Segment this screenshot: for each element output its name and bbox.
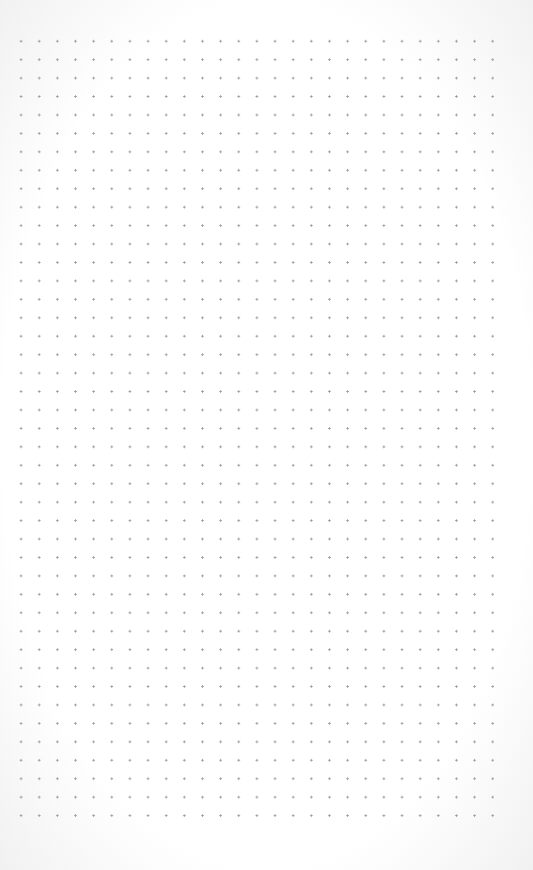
dot-grid	[12, 32, 494, 828]
dot-grid-page	[0, 0, 533, 870]
